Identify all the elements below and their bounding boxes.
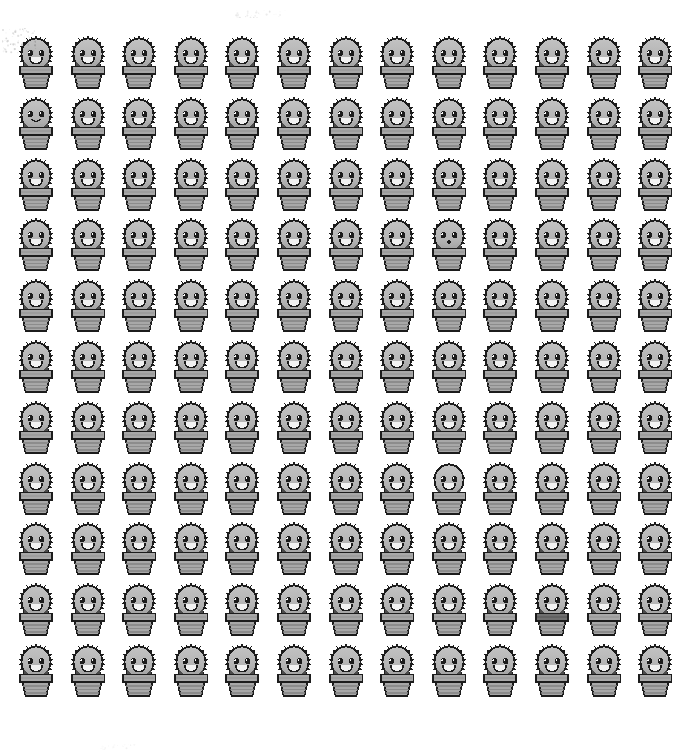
speck-bottom [100, 744, 140, 750]
cactus-sprite [117, 155, 161, 212]
cactus-sprite [478, 519, 522, 576]
cactus-sprite [427, 155, 471, 212]
cactus-sprite [478, 459, 522, 516]
cactus-sprite [375, 519, 419, 576]
cactus-sprite [117, 398, 161, 455]
cactus-sprite [272, 519, 316, 576]
cactus-sprite [530, 155, 574, 212]
cactus-sprite [633, 519, 677, 576]
cactus-sprite [324, 337, 368, 394]
cactus-sprite [220, 459, 264, 516]
cactus-sprite [272, 276, 316, 333]
cactus-sprite [633, 215, 677, 272]
cactus-sprite [66, 33, 110, 90]
cactus-sprite [582, 580, 626, 637]
cactus-sprite [272, 459, 316, 516]
cactus-sprite [427, 519, 471, 576]
cactus-sprite [66, 94, 110, 151]
cactus-sprite [272, 94, 316, 151]
cactus-sprite [582, 519, 626, 576]
cactus-sprite [375, 215, 419, 272]
cactus-sprite [66, 276, 110, 333]
cactus-sprite [272, 398, 316, 455]
cactus-sprite [530, 215, 574, 272]
cactus-sprite [582, 641, 626, 698]
cactus-sprite [633, 459, 677, 516]
cactus-sprite [427, 276, 471, 333]
cactus-sprite [633, 276, 677, 333]
cactus-sprite [530, 337, 574, 394]
cactus-sprite [272, 155, 316, 212]
cactus-sprite [324, 459, 368, 516]
cactus-sprite [169, 33, 213, 90]
cactus-sprite [14, 215, 58, 272]
cactus-sprite [427, 459, 471, 516]
cactus-sprite [324, 215, 368, 272]
cactus-sprite [375, 33, 419, 90]
cactus-sprite [530, 276, 574, 333]
cactus-sprite [220, 641, 264, 698]
cactus-sprite [66, 459, 110, 516]
cactus-sprite [478, 94, 522, 151]
cactus-sprite [530, 459, 574, 516]
cactus-sprite [478, 337, 522, 394]
cactus-sprite [478, 398, 522, 455]
cactus-sprite [272, 580, 316, 637]
cactus-sprite [169, 459, 213, 516]
cactus-sprite [169, 519, 213, 576]
cactus-sprite [530, 94, 574, 151]
cactus-sprite [117, 641, 161, 698]
cactus-sprite [220, 155, 264, 212]
cactus-sprite [478, 155, 522, 212]
cactus-sprite [478, 33, 522, 90]
cactus-sprite [272, 215, 316, 272]
cactus-sprite [324, 155, 368, 212]
cactus-grid-canvas [0, 0, 697, 756]
cactus-sprite [375, 641, 419, 698]
cactus-sprite [14, 155, 58, 212]
cactus-sprite [530, 33, 574, 90]
speck-upper-mid [232, 10, 288, 18]
cactus-sprite [324, 398, 368, 455]
cactus-sprite [66, 337, 110, 394]
cactus-sprite [633, 337, 677, 394]
cactus-sprite [375, 337, 419, 394]
cactus-sprite [169, 215, 213, 272]
cactus-sprite [117, 215, 161, 272]
cactus-sprite [220, 337, 264, 394]
cactus-sprite [427, 337, 471, 394]
cactus-sprite [427, 33, 471, 90]
cactus-sprite [220, 580, 264, 637]
cactus-sprite [272, 337, 316, 394]
cactus-sprite [169, 398, 213, 455]
cactus-sprite [14, 519, 58, 576]
cactus-sprite [220, 276, 264, 333]
cactus-sprite [478, 580, 522, 637]
cactus-sprite [14, 94, 58, 151]
cactus-sprite [220, 94, 264, 151]
cactus-sprite [14, 459, 58, 516]
cactus-sprite [478, 276, 522, 333]
cactus-sprite [272, 33, 316, 90]
cactus-sprite [530, 398, 574, 455]
cactus-sprite [14, 337, 58, 394]
cactus-sprite [582, 276, 626, 333]
cactus-sprite [582, 155, 626, 212]
cactus-sprite [427, 398, 471, 455]
cactus-sprite [169, 337, 213, 394]
cactus-sprite [66, 580, 110, 637]
cactus-sprite [117, 580, 161, 637]
cactus-sprite [14, 398, 58, 455]
cactus-sprite [324, 641, 368, 698]
cactus-sprite [633, 33, 677, 90]
cactus-sprite [324, 276, 368, 333]
cactus-sprite [633, 155, 677, 212]
cactus-sprite [324, 33, 368, 90]
cactus-sprite [633, 94, 677, 151]
cactus-sprite [582, 33, 626, 90]
cactus-sprite [14, 33, 58, 90]
cactus-sprite [14, 276, 58, 333]
cactus-sprite [220, 215, 264, 272]
cactus-sprite [375, 580, 419, 637]
cactus-sprite [530, 580, 574, 637]
